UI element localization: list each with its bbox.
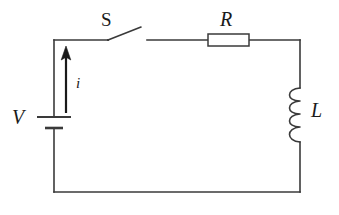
circuit-schematic — [0, 0, 339, 215]
resistor-box[interactable] — [208, 34, 249, 46]
switch-label: S — [101, 10, 112, 29]
current-label: i — [76, 76, 80, 91]
circuit-diagram-canvas: S R L V i — [0, 0, 339, 215]
switch-symbol[interactable] — [107, 27, 141, 41]
switch-pivot-contact — [107, 39, 109, 41]
inductor-label: L — [311, 100, 322, 120]
current-arrow — [61, 46, 71, 113]
inductor-coil[interactable] — [290, 88, 301, 142]
resistor-label: R — [220, 9, 232, 29]
switch-blade[interactable] — [108, 27, 141, 40]
battery-symbol[interactable] — [37, 117, 71, 128]
source-label: V — [12, 107, 24, 127]
